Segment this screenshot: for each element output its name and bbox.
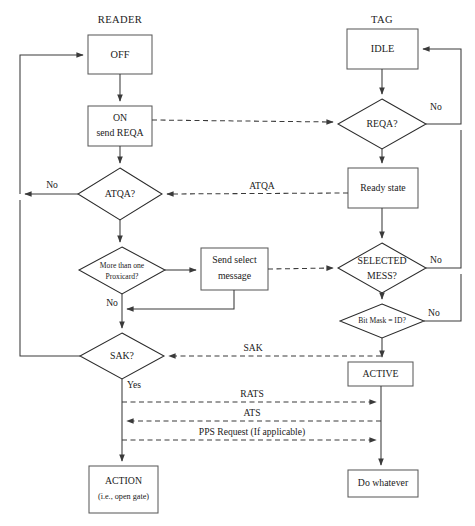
node-send-select-label-line1: Send select xyxy=(212,254,257,265)
edge-label-sak-msg: SAK xyxy=(243,342,262,353)
node-reqa-label: REQA? xyxy=(366,118,397,129)
node-reqa-decision[interactable]: REQA? xyxy=(338,99,426,149)
node-bitmask-decision[interactable]: Bit Mask = ID? xyxy=(340,304,424,338)
edge-label-pps: PPS Request (If applicable) xyxy=(199,426,305,438)
node-idle-label: IDLE xyxy=(371,43,394,54)
edge-label-selected-no: No xyxy=(430,254,442,265)
node-idle[interactable]: IDLE xyxy=(347,29,418,69)
node-proxicard-label-line2: Proxicard? xyxy=(106,272,140,281)
node-on-label-line1: ON xyxy=(113,112,127,123)
edge-label-ats: ATS xyxy=(243,407,260,418)
edge-selected-no-to-bus xyxy=(426,130,461,268)
node-ready-state-label: Ready state xyxy=(360,182,406,193)
node-selected-mess-decision[interactable]: SELECTED MESS? xyxy=(338,243,426,293)
flowchart-canvas: READER TAG OFF ON send REQA ATQA? More t… xyxy=(0,0,475,526)
node-proxicard-label-line1: More than one xyxy=(100,261,145,270)
column-title-tag: TAG xyxy=(371,14,393,25)
node-action[interactable]: ACTION (i.e., open gate) xyxy=(89,466,158,513)
node-sak-label: SAK? xyxy=(110,350,134,361)
node-sak-decision[interactable]: SAK? xyxy=(80,333,164,379)
edge-sak-no-to-bus xyxy=(20,200,80,356)
edge-label-atqa-msg: ATQA xyxy=(249,180,275,191)
edge-msg-reqa xyxy=(152,120,333,122)
node-active-label: ACTIVE xyxy=(363,368,399,379)
node-atqa-decision[interactable]: ATQA? xyxy=(78,168,162,220)
node-on-send-reqa[interactable]: ON send REQA xyxy=(88,106,152,146)
node-send-select-label-line2: message xyxy=(218,270,252,281)
edge-bus-to-off xyxy=(20,55,83,194)
node-selected-label-line2: MESS? xyxy=(367,270,397,281)
node-send-select-message[interactable]: Send select message xyxy=(201,248,268,290)
node-active[interactable]: ACTIVE xyxy=(348,362,413,386)
edge-label-reqa-no: No xyxy=(430,101,442,112)
node-selected-label-line1: SELECTED xyxy=(358,255,407,266)
node-action-label-line1: ACTION xyxy=(105,475,142,486)
node-do-whatever[interactable]: Do whatever xyxy=(348,470,418,497)
node-off[interactable]: OFF xyxy=(88,35,152,74)
node-do-whatever-label: Do whatever xyxy=(358,477,409,488)
node-bitmask-label: Bit Mask = ID? xyxy=(358,316,406,325)
node-action-label-line2: (i.e., open gate) xyxy=(98,492,149,501)
node-off-label: OFF xyxy=(111,49,130,60)
edge-label-atqa-no: No xyxy=(46,179,58,190)
flowchart-svg: READER TAG OFF ON send REQA ATQA? More t… xyxy=(0,0,475,526)
node-ready-state[interactable]: Ready state xyxy=(348,168,418,208)
node-atqa-label: ATQA? xyxy=(105,188,135,199)
node-on-label-line2: send REQA xyxy=(96,127,143,138)
node-more-than-one-proxicard-decision[interactable]: More than one Proxicard? xyxy=(79,247,165,294)
edge-label-rats: RATS xyxy=(240,388,263,399)
edge-label-proxicard-no: No xyxy=(106,297,118,308)
edge-label-bitmask-no: No xyxy=(428,307,440,318)
edge-label-sak-yes: Yes xyxy=(127,379,141,390)
column-title-reader: READER xyxy=(98,14,142,25)
edge-msg-atqa xyxy=(167,193,348,194)
edge-msg-select xyxy=(268,268,333,269)
edge-send-select-loop-back xyxy=(127,290,234,309)
edge-reqa-no-to-idle xyxy=(423,49,461,124)
